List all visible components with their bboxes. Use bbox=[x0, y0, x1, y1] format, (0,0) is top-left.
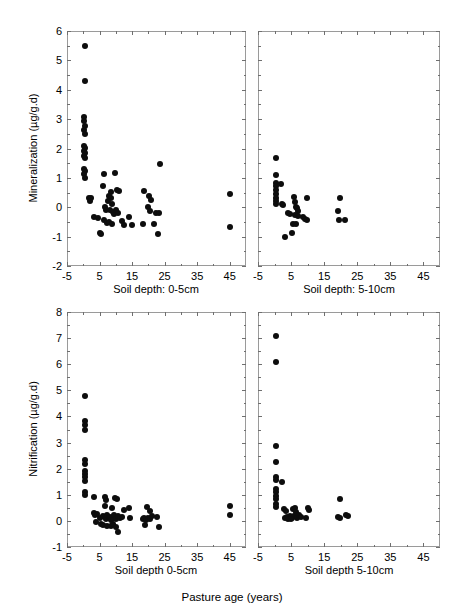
yaxis-tick-right bbox=[242, 31, 246, 32]
yaxis-tick-label: 0 bbox=[56, 515, 62, 526]
yaxis-tick bbox=[67, 149, 71, 150]
xaxis-minor-tick bbox=[148, 264, 149, 267]
xaxis-tick-top bbox=[67, 31, 68, 35]
yaxis-minor-tick bbox=[67, 377, 70, 378]
yaxis-minor-tick-right bbox=[244, 482, 247, 483]
yaxis-tick-right bbox=[436, 495, 440, 496]
xaxis-tick-top bbox=[165, 312, 166, 316]
yaxis-tick-label: -1 bbox=[52, 542, 62, 553]
yaxis-minor-tick bbox=[67, 251, 70, 252]
xaxis-tick-label: 35 bbox=[384, 552, 396, 563]
data-point bbox=[140, 221, 146, 227]
yaxis-minor-tick bbox=[258, 193, 261, 194]
yaxis-tick-label: 5 bbox=[56, 385, 62, 396]
yaxis-tick bbox=[258, 149, 262, 150]
yaxis-tick-right bbox=[242, 469, 246, 470]
yaxis-tick bbox=[258, 207, 262, 208]
yaxis-tick-right bbox=[242, 149, 246, 150]
yaxis-tick bbox=[258, 60, 262, 61]
xaxis-minor-tick-top bbox=[341, 312, 342, 315]
data-point bbox=[282, 234, 288, 240]
yaxis-minor-tick bbox=[258, 456, 261, 457]
data-point bbox=[82, 393, 88, 399]
data-point bbox=[304, 217, 310, 223]
yaxis-minor-tick-right bbox=[244, 251, 247, 252]
yaxis-tick-right bbox=[242, 443, 246, 444]
yaxis-tick-right bbox=[436, 119, 440, 120]
xaxis-minor-tick bbox=[213, 264, 214, 267]
yaxis-minor-tick bbox=[67, 403, 70, 404]
xaxis-tick-label: -5 bbox=[62, 552, 72, 563]
yaxis-tick-label: 2 bbox=[56, 463, 62, 474]
yaxis-tick-label: 4 bbox=[56, 411, 62, 422]
yaxis-tick-label: 7 bbox=[56, 333, 62, 344]
yaxis-minor-tick bbox=[258, 75, 261, 76]
xaxis-tick-top bbox=[197, 312, 198, 316]
yaxis-tick bbox=[67, 469, 71, 470]
yaxis-tick-right bbox=[242, 60, 246, 61]
data-point bbox=[114, 496, 120, 502]
yaxis-minor-tick-right bbox=[244, 403, 247, 404]
xaxis-tick-top bbox=[390, 312, 391, 316]
yaxis-minor-tick-right bbox=[438, 403, 441, 404]
xaxis-minor-tick-top bbox=[275, 31, 276, 34]
xaxis-minor-tick bbox=[213, 545, 214, 548]
yaxis-minor-tick-right bbox=[438, 482, 441, 483]
xaxis-minor-tick bbox=[374, 545, 375, 548]
yaxis-tick-label: -1 bbox=[52, 231, 62, 242]
yaxis-minor-tick-right bbox=[244, 193, 247, 194]
data-point bbox=[82, 427, 88, 433]
yaxis-minor-tick-right bbox=[244, 222, 247, 223]
xaxis-minor-tick-top bbox=[116, 312, 117, 315]
data-point bbox=[121, 222, 127, 228]
yaxis-tick-label: 1 bbox=[56, 172, 62, 183]
xaxis-tick-top bbox=[324, 31, 325, 35]
data-point bbox=[151, 221, 157, 227]
xaxis-tick bbox=[357, 543, 358, 547]
data-point bbox=[126, 214, 132, 220]
xaxis-minor-tick-top bbox=[83, 312, 84, 315]
xaxis-tick-top bbox=[423, 31, 424, 35]
yaxis-minor-tick bbox=[258, 46, 261, 47]
yaxis-tick-label: -2 bbox=[52, 261, 62, 272]
xaxis-tick-label: 25 bbox=[159, 271, 171, 282]
yaxis-tick-right bbox=[436, 443, 440, 444]
data-point bbox=[102, 503, 108, 509]
data-point bbox=[115, 210, 121, 216]
xaxis-minor-tick bbox=[83, 264, 84, 267]
data-point bbox=[115, 529, 121, 535]
yaxis-tick-right bbox=[436, 149, 440, 150]
yaxis-minor-tick bbox=[258, 104, 261, 105]
xaxis-minor-tick-top bbox=[374, 312, 375, 315]
xaxis-tick-label: 45 bbox=[417, 552, 429, 563]
yaxis-tick bbox=[258, 416, 262, 417]
yaxis-title-mineralization: Mineralization (µg/g.d) bbox=[27, 93, 39, 202]
yaxis-tick bbox=[258, 469, 262, 470]
yaxis-minor-tick bbox=[67, 534, 70, 535]
xaxis-minor-tick-top bbox=[181, 312, 182, 315]
panel-mineralization-5-10cm: -5515253545 bbox=[258, 31, 440, 266]
data-point bbox=[82, 175, 88, 181]
yaxis-minor-tick-right bbox=[244, 508, 247, 509]
yaxis-minor-tick-right bbox=[438, 534, 441, 535]
xaxis-tick-top bbox=[132, 312, 133, 316]
xaxis-tick bbox=[67, 543, 68, 547]
data-point bbox=[342, 217, 348, 223]
xaxis-tick-top bbox=[357, 312, 358, 316]
data-point bbox=[82, 155, 88, 161]
yaxis-minor-tick bbox=[67, 456, 70, 457]
xaxis-tick bbox=[230, 543, 231, 547]
yaxis-tick bbox=[67, 338, 71, 339]
xaxis-tick bbox=[423, 543, 424, 547]
yaxis-tick bbox=[67, 416, 71, 417]
data-point bbox=[227, 512, 233, 518]
yaxis-tick-right bbox=[242, 338, 246, 339]
yaxis-tick bbox=[67, 364, 71, 365]
xaxis-tick-top bbox=[423, 312, 424, 316]
xaxis-tick-label: 35 bbox=[191, 552, 203, 563]
yaxis-tick bbox=[258, 390, 262, 391]
data-point bbox=[101, 171, 107, 177]
data-point bbox=[148, 197, 154, 203]
yaxis-tick-label: 0 bbox=[56, 202, 62, 213]
plot-area bbox=[67, 31, 246, 266]
